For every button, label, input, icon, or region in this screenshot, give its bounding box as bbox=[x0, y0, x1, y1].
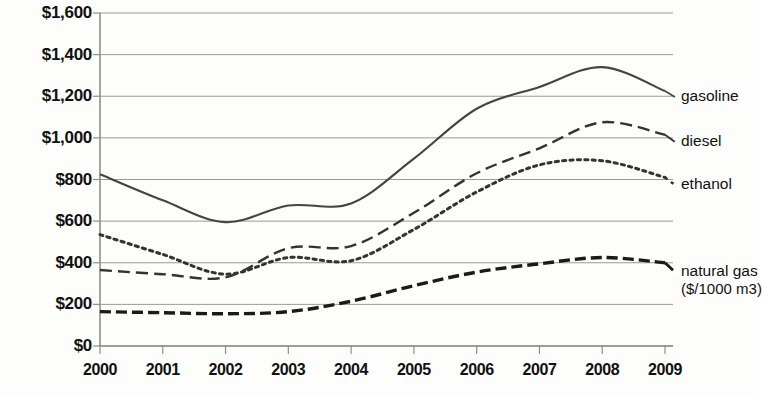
series-label-leaders bbox=[665, 91, 675, 272]
data-series bbox=[100, 67, 665, 314]
series-label-text: diesel bbox=[681, 132, 722, 149]
leader-line-diesel bbox=[665, 135, 675, 142]
series-label-ethanol: ethanol bbox=[681, 175, 732, 193]
series-label-natural-gas: natural gas($/1000 m3) bbox=[681, 262, 762, 298]
x-axis-ticks bbox=[100, 346, 665, 354]
leader-line-ethanol bbox=[665, 177, 675, 185]
series-label-text: natural gas bbox=[681, 262, 758, 279]
y-axis-ticks bbox=[93, 13, 100, 346]
series-label-text: ethanol bbox=[681, 175, 732, 192]
series-line-ethanol bbox=[100, 160, 665, 274]
series-line-natural-gas bbox=[100, 258, 665, 314]
series-label-text: gasoline bbox=[681, 87, 739, 104]
series-line-gasoline bbox=[100, 67, 665, 222]
series-label-gasoline: gasoline bbox=[681, 87, 739, 105]
series-line-diesel bbox=[100, 122, 665, 279]
series-label-diesel: diesel bbox=[681, 132, 722, 150]
series-label-sublabel: ($/1000 m3) bbox=[681, 280, 762, 298]
leader-line-natural-gas bbox=[665, 263, 675, 272]
